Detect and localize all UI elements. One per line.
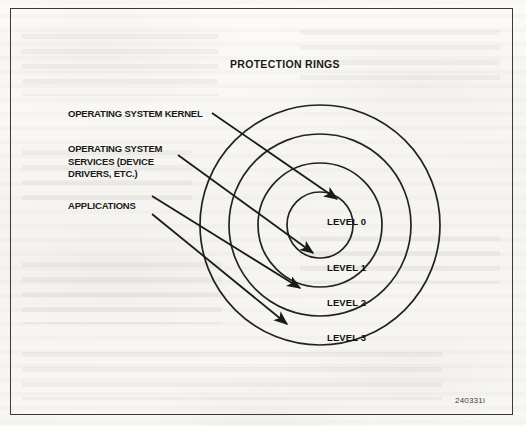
figure-title: PROTECTION RINGS <box>230 58 340 71</box>
arrow-to-level-0 <box>212 113 337 199</box>
callout-label-services: OPERATING SYSTEM SERVICES (DEVICE DRIVER… <box>68 143 162 181</box>
figure-number: 240331i <box>455 396 485 405</box>
ring-level-2 <box>229 134 411 316</box>
ring-label-level-1: LEVEL 1 <box>327 262 366 273</box>
arrow-to-level-3 <box>152 214 287 324</box>
callout-label-applications: APPLICATIONS <box>68 200 136 213</box>
ring-level-3 <box>200 105 440 345</box>
ring-label-level-0: LEVEL 0 <box>327 216 366 227</box>
ring-label-level-2: LEVEL 2 <box>327 297 366 308</box>
figure-page: PROTECTION RINGS OPERATING SYSTEM KERNEL… <box>0 0 526 426</box>
callout-label-kernel: OPERATING SYSTEM KERNEL <box>68 108 203 121</box>
ring-label-level-3: LEVEL 3 <box>327 332 366 343</box>
